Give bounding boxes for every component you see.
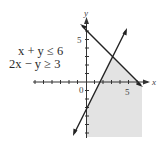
origin-label: 0 [79,85,84,95]
y-tick-label-5: 5 [77,35,82,45]
x-tick-label-5: 5 [125,87,130,97]
y-axis-label: y [83,8,88,18]
solution-region [87,57,142,138]
coordinate-plane: y x 0 5 5 [0,0,162,150]
inequality-2: 2x − y ≥ 3 [9,58,60,71]
x-axis-label: x [151,77,156,87]
